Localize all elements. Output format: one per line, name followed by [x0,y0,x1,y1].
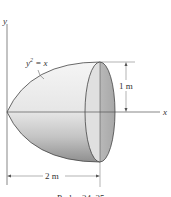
x-axis-label: x [162,107,167,117]
paraboloid-diagram: y x y2 = x 1 m 2 m Probs. 24–25 [0,0,171,197]
length-label: 2 m [45,171,59,181]
y-axis-label: y [2,16,7,26]
radius-label: 1 m [119,81,133,91]
figure-caption: Probs. 24–25 [57,193,105,197]
curve-equation-label: y2 = x [25,57,48,68]
